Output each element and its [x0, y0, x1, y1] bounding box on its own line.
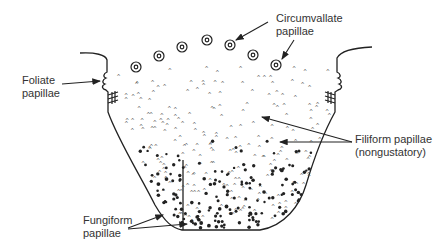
svg-text:^: ^	[290, 78, 294, 84]
svg-text:^: ^	[218, 90, 222, 96]
filiform-label: Filiform papillae (nongustatory)	[355, 133, 432, 159]
svg-text:^: ^	[189, 79, 193, 85]
svg-text:^: ^	[173, 126, 177, 132]
svg-text:^: ^	[275, 104, 279, 110]
svg-text:^: ^	[213, 79, 217, 85]
svg-text:^: ^	[195, 86, 199, 92]
fungiform-label: Fungiform papillae	[83, 214, 133, 240]
svg-text:^: ^	[318, 136, 322, 142]
svg-text:^: ^	[315, 104, 319, 110]
svg-text:^: ^	[193, 127, 197, 133]
svg-text:^: ^	[190, 189, 194, 195]
svg-text:^: ^	[293, 94, 297, 100]
svg-text:^: ^	[267, 92, 271, 98]
svg-text:^: ^	[148, 97, 152, 103]
svg-text:^: ^	[201, 82, 205, 88]
svg-text:^: ^	[291, 128, 295, 134]
svg-text:^: ^	[251, 120, 255, 126]
svg-text:^: ^	[270, 216, 274, 222]
svg-text:^: ^	[229, 124, 233, 130]
svg-text:^: ^	[208, 142, 212, 148]
svg-text:^: ^	[191, 172, 195, 178]
svg-text:^: ^	[230, 169, 234, 175]
svg-text:^: ^	[279, 149, 283, 155]
foliate-label: Foliate papillae	[22, 74, 60, 100]
svg-text:^: ^	[178, 134, 182, 140]
svg-text:^: ^	[156, 84, 160, 90]
svg-text:^: ^	[139, 96, 143, 102]
svg-text:^: ^	[309, 108, 313, 114]
svg-text:^: ^	[186, 203, 190, 209]
svg-text:^: ^	[239, 65, 243, 71]
svg-text:^: ^	[309, 116, 313, 122]
svg-text:^: ^	[202, 187, 206, 193]
svg-text:^: ^	[306, 156, 310, 162]
svg-text:^: ^	[124, 120, 128, 126]
fungiform-label-line2: papillae	[83, 227, 133, 240]
svg-text:^: ^	[220, 80, 224, 86]
svg-text:^: ^	[302, 181, 306, 187]
svg-text:^: ^	[201, 130, 205, 136]
svg-text:^: ^	[270, 123, 274, 129]
svg-text:^: ^	[241, 108, 245, 114]
svg-text:^: ^	[205, 65, 209, 71]
svg-text:^: ^	[229, 189, 233, 195]
svg-text:^: ^	[151, 89, 155, 95]
svg-text:^: ^	[257, 144, 261, 150]
svg-text:^: ^	[187, 214, 191, 220]
svg-text:^: ^	[276, 193, 280, 199]
svg-text:^: ^	[135, 80, 139, 86]
tongue-diagram: ^^^^^^^^^^^^^^^^^^^^^^^^^^^^^^^^^^^^^^^^…	[0, 0, 446, 246]
svg-text:^: ^	[173, 138, 177, 144]
foliate-label-line2: papillae	[22, 87, 60, 100]
svg-text:^: ^	[257, 191, 261, 197]
svg-text:^: ^	[124, 96, 128, 102]
foliate-ridges-right	[325, 91, 335, 104]
svg-text:^: ^	[214, 131, 218, 137]
svg-text:^: ^	[300, 81, 304, 87]
svg-text:^: ^	[181, 151, 185, 157]
svg-text:^: ^	[197, 189, 201, 195]
svg-text:^: ^	[185, 182, 189, 188]
svg-text:^: ^	[316, 122, 320, 128]
svg-text:^: ^	[130, 127, 134, 133]
svg-text:^: ^	[303, 68, 307, 74]
svg-text:^: ^	[236, 165, 240, 171]
circumvallate-label-line1: Circumvallate	[276, 12, 343, 25]
svg-text:^: ^	[186, 170, 190, 176]
svg-text:^: ^	[234, 176, 238, 182]
svg-text:^: ^	[268, 74, 272, 80]
svg-text:^: ^	[250, 88, 254, 94]
svg-text:^: ^	[159, 117, 163, 123]
svg-text:^: ^	[292, 65, 296, 71]
filiform-label-line2: (nongustatory)	[355, 146, 432, 159]
svg-text:^: ^	[234, 135, 238, 141]
svg-text:^: ^	[285, 157, 289, 163]
label-arrows	[62, 22, 352, 229]
svg-text:^: ^	[284, 199, 288, 205]
svg-text:^: ^	[181, 120, 185, 126]
svg-text:^: ^	[271, 80, 275, 86]
svg-text:^: ^	[239, 123, 243, 129]
svg-text:^: ^	[277, 210, 281, 216]
svg-text:^: ^	[192, 121, 196, 127]
svg-text:^: ^	[185, 88, 189, 94]
svg-text:^: ^	[281, 92, 285, 98]
svg-text:^: ^	[241, 206, 245, 212]
svg-text:^: ^	[307, 173, 311, 179]
svg-text:^: ^	[326, 68, 330, 74]
svg-text:^: ^	[139, 123, 143, 129]
svg-text:^: ^	[154, 143, 158, 149]
svg-text:^: ^	[225, 136, 229, 142]
svg-text:^: ^	[262, 74, 266, 80]
svg-text:^: ^	[211, 160, 215, 166]
svg-text:^: ^	[156, 157, 160, 163]
svg-text:^: ^	[131, 93, 135, 99]
svg-text:^: ^	[237, 195, 241, 201]
svg-text:^: ^	[257, 134, 261, 140]
svg-text:^: ^	[212, 106, 216, 112]
svg-text:^: ^	[241, 185, 245, 191]
svg-text:^: ^	[208, 91, 212, 97]
svg-text:^: ^	[150, 125, 154, 131]
foliate-label-line1: Foliate	[22, 74, 60, 87]
